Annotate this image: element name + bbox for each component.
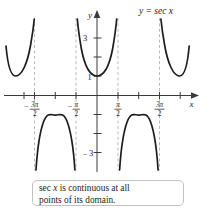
caption-line-1-post: is continuous at all xyxy=(57,183,129,193)
x-label-neg-pi-over-2-sign: – xyxy=(67,102,72,110)
sec-branch-left-down-arch xyxy=(36,115,75,170)
x-label-3pi-over-2-denominator: 2 xyxy=(158,110,162,118)
y-axis-arrowhead xyxy=(94,10,101,18)
x-axis xyxy=(4,92,199,99)
x-label-pi-over-2: π 2 xyxy=(114,101,121,118)
x-label-neg-pi-over-2-denominator: 2 xyxy=(74,110,78,118)
y-label-neg-3: 3 xyxy=(89,148,93,158)
x-label-3pi-over-2-numerator: 3π xyxy=(155,101,164,109)
sec-function-figure: 3 1 – 3 – 3π 2 – π 2 π 2 3π 2 xyxy=(0,0,209,210)
caption-line-1-pre: sec xyxy=(39,183,53,193)
sec-function-plot: 3 1 – 3 – 3π 2 – π 2 π 2 3π 2 xyxy=(0,0,209,210)
x-axis-label: x xyxy=(189,99,194,109)
y-label-1: 1 xyxy=(87,72,91,82)
sec-curve-group xyxy=(6,19,189,170)
x-label-neg-3pi-over-2: – 3π 2 xyxy=(23,101,39,118)
equation-label: y = sec x xyxy=(138,6,174,16)
caption-box: sec x is continuous at all points of its… xyxy=(32,180,184,206)
x-label-neg-3pi-over-2-sign: – xyxy=(23,102,28,110)
x-label-neg-3pi-over-2-numerator: 3π xyxy=(30,101,39,109)
y-axis-label: y xyxy=(87,10,92,20)
x-label-3pi-over-2: 3π 2 xyxy=(155,101,165,118)
x-label-neg-pi-over-2: – π 2 xyxy=(67,101,80,118)
y-axis xyxy=(94,10,102,172)
sec-branch-right-down-arch xyxy=(120,115,159,170)
x-label-neg-pi-over-2-numerator: π xyxy=(74,101,78,109)
x-label-neg-3pi-over-2-denominator: 2 xyxy=(33,110,37,118)
y-label-neg-3-sign: – xyxy=(82,150,87,158)
x-label-pi-over-2-numerator: π xyxy=(116,101,120,109)
sec-branch-far-right xyxy=(161,19,189,76)
y-label-3: 3 xyxy=(83,33,87,43)
caption-line-1: sec x is continuous at all xyxy=(39,183,183,195)
x-label-pi-over-2-denominator: 2 xyxy=(116,110,120,118)
caption-line-2: points of its domain. xyxy=(39,195,183,207)
sec-branch-far-left xyxy=(6,19,34,76)
